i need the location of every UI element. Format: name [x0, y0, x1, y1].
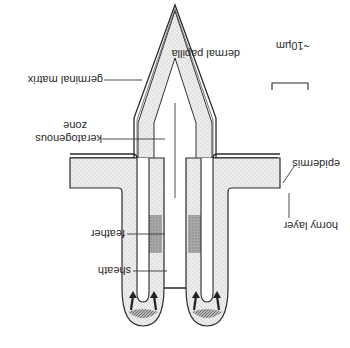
label-keratogenous-zone-1: keratogenous	[35, 133, 102, 145]
right-follicle-lip	[70, 158, 164, 326]
label-germinal-matrix: germinal matrix	[27, 74, 103, 86]
label-epidermis: epidermis	[292, 158, 340, 170]
left-follicle-lip	[186, 158, 280, 326]
follicle-body	[70, 5, 278, 288]
label-horny-layer: horny layer	[283, 220, 338, 232]
label-feather: feather	[90, 228, 125, 240]
label-keratogenous-zone-2: zone	[63, 120, 87, 132]
label-dermal-papilla: dermal papilla	[171, 48, 240, 60]
feather-follicle-diagram: ~10µm dermal papilla germinal matrix ker…	[0, 0, 350, 348]
label-sheath: sheath	[98, 265, 131, 277]
scale-bar	[272, 83, 308, 90]
scale-bar-label: ~10µm	[276, 40, 310, 52]
inner-channel-left	[201, 158, 213, 302]
inner-channel-right	[137, 158, 149, 302]
